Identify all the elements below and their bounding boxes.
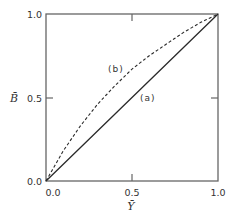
x-tick-label-0.5: 0.5 <box>124 187 139 198</box>
chart: (b) (a) 1.0 0.5 0.0 0.0 0.5 1.0 B̄ Ȳ <box>0 0 243 222</box>
curve-label-a: (a) <box>140 93 156 103</box>
curve-label-b: (b) <box>108 64 124 74</box>
x-tick-label-1.0: 1.0 <box>210 187 225 198</box>
x-tick-label-0.0: 0.0 <box>45 187 60 198</box>
y-tick-label-0.5: 0.5 <box>27 93 42 104</box>
x-axis-label: Ȳ <box>127 200 136 213</box>
y-axis-label: B̄ <box>9 92 18 105</box>
series-a-line <box>46 14 218 181</box>
y-tick-label-1.0: 1.0 <box>27 9 42 20</box>
y-tick-label-0.0: 0.0 <box>27 176 42 187</box>
